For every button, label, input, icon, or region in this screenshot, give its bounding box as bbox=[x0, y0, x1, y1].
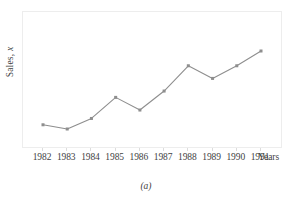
x-axis-label-1989: 1989 bbox=[202, 152, 221, 162]
line-chart-svg bbox=[23, 12, 283, 149]
x-tick-1985 bbox=[115, 148, 116, 151]
x-tick-1991 bbox=[260, 148, 261, 151]
data-point-1991 bbox=[260, 50, 263, 53]
figure-caption: (a) bbox=[0, 181, 292, 191]
x-tick-1988 bbox=[187, 148, 188, 151]
sales-series-line bbox=[43, 51, 261, 129]
x-axis-label-1990: 1990 bbox=[226, 152, 245, 162]
x-tick-1983 bbox=[66, 148, 67, 151]
x-axis-label-1986: 1986 bbox=[130, 152, 149, 162]
x-tick-1987 bbox=[163, 148, 164, 151]
x-axis-label-1991: 1991 bbox=[251, 152, 270, 162]
sales-series-markers bbox=[42, 50, 263, 131]
x-axis-label-1988: 1988 bbox=[178, 152, 197, 162]
plot-area bbox=[22, 11, 282, 148]
data-point-1989 bbox=[211, 77, 214, 80]
x-axis-label-1983: 1983 bbox=[57, 152, 76, 162]
y-axis-title-variable: x bbox=[5, 47, 15, 51]
x-axis-label-1984: 1984 bbox=[81, 152, 100, 162]
y-axis-title-text: Sales, bbox=[5, 51, 15, 77]
x-tick-1989 bbox=[212, 148, 213, 151]
x-axis-label-1982: 1982 bbox=[33, 152, 52, 162]
data-point-1987 bbox=[163, 90, 166, 93]
x-axis-label-1987: 1987 bbox=[154, 152, 173, 162]
data-point-1984 bbox=[90, 117, 93, 120]
data-point-1985 bbox=[114, 96, 117, 99]
data-point-1982 bbox=[42, 123, 45, 126]
data-point-1990 bbox=[235, 64, 238, 67]
data-point-1983 bbox=[66, 128, 69, 131]
x-axis-labels: Years 1982198319841985198619871988198919… bbox=[0, 152, 292, 166]
y-axis-title: Sales, x bbox=[5, 30, 15, 94]
x-tick-1982 bbox=[42, 148, 43, 151]
figure-panel: Sales, x Years 1982198319841985198619871… bbox=[0, 0, 292, 204]
data-point-1986 bbox=[138, 109, 141, 112]
x-tick-1984 bbox=[90, 148, 91, 151]
x-axis-label-1985: 1985 bbox=[105, 152, 124, 162]
data-point-1988 bbox=[187, 64, 190, 67]
x-tick-1990 bbox=[236, 148, 237, 151]
x-tick-1986 bbox=[139, 148, 140, 151]
